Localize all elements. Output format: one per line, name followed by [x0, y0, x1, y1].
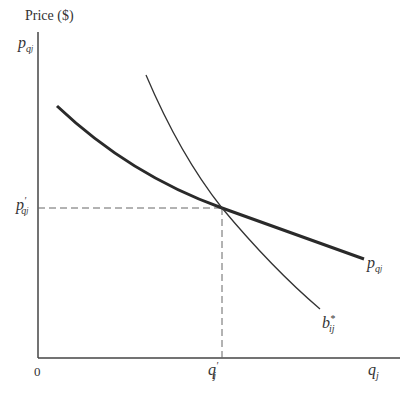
price-curve-label: pqj [367, 254, 382, 272]
price-curve [57, 106, 364, 259]
y-axis-title: Price ($) [25, 8, 74, 24]
bid-curve-label: b*ij [322, 314, 335, 332]
x-mid-tick-label: q′j [208, 361, 216, 379]
y-mid-tick-label: p′qj [16, 196, 28, 214]
origin-label: 0 [34, 364, 41, 380]
y-top-tick-label: pqj [18, 34, 33, 52]
bid-curve [146, 75, 320, 309]
x-end-tick-label: qj [368, 361, 379, 379]
diagram-canvas [0, 0, 413, 396]
